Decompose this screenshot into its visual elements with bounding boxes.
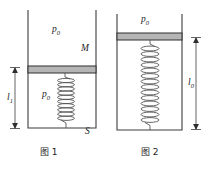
fig2-label-outside-pressure: p0: [141, 15, 149, 26]
fig1-piston: [28, 66, 96, 73]
fig1-caption: 图 1: [40, 148, 58, 157]
fig1-label-length-l1: l1: [7, 93, 13, 104]
fig1-label-outside-pressure: p0: [52, 25, 60, 36]
fig1-label-piston-mass: M: [81, 44, 89, 54]
fig2-label-length-l0: l0: [188, 78, 194, 89]
fig2-spring: [141, 40, 159, 130]
fig2-cylinder-outline: [117, 14, 182, 130]
physics-diagram: [0, 0, 215, 169]
fig1-label-inside-pressure: p0: [42, 90, 50, 101]
diagram-canvas: p0 M p0 S l1 图 1 p0 l0 图 2: [0, 0, 215, 169]
fig2-caption: 图 2: [141, 148, 159, 157]
fig1-label-cross-section: S: [85, 127, 90, 137]
fig2-piston: [117, 33, 182, 40]
fig1-spring: [58, 73, 75, 128]
figure-2-group: [117, 14, 201, 130]
